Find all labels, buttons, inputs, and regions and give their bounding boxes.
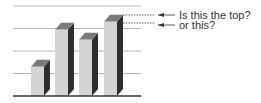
- bar: [104, 15, 123, 96]
- bar: [79, 33, 98, 96]
- bar: [31, 60, 50, 96]
- arrow-left-icon: [158, 23, 164, 27]
- annotation-arrows: [123, 13, 175, 27]
- bars: [31, 15, 123, 96]
- annotation-front-label: or this?: [179, 19, 215, 31]
- arrow-left-icon: [158, 13, 164, 17]
- bar: [55, 23, 74, 96]
